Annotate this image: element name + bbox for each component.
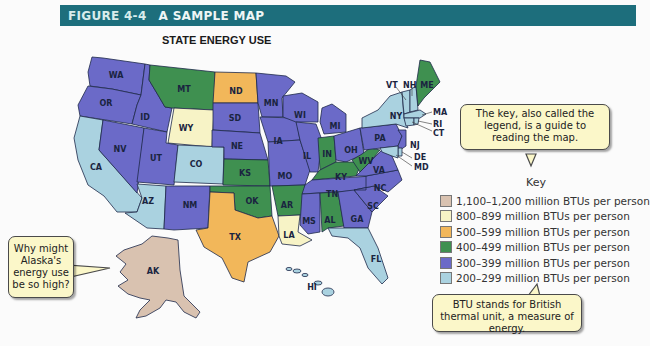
svg-text:TN: TN [326, 190, 338, 199]
legend-item: 300–399 million BTUs per person [440, 255, 650, 271]
svg-text:UT: UT [150, 154, 162, 163]
svg-text:ID: ID [140, 113, 150, 122]
svg-text:VA: VA [373, 166, 386, 175]
legend-label: 400–499 million BTUs per person [456, 241, 630, 253]
svg-text:NJ: NJ [410, 141, 420, 150]
legend-explanation-text: The key, also called the legend, is a gu… [476, 108, 594, 143]
btu-definition-callout: BTU stands for British thermal unit, a m… [432, 294, 582, 332]
svg-text:MI: MI [330, 122, 341, 131]
svg-text:NV: NV [114, 145, 128, 154]
svg-text:MA: MA [433, 108, 448, 117]
svg-text:AZ: AZ [142, 197, 154, 206]
svg-text:HI: HI [307, 283, 317, 292]
legend-item: 1,100–1,200 million BTUs per person [440, 193, 650, 209]
svg-text:OR: OR [100, 99, 113, 108]
legend-explanation-callout: The key, also called the legend, is a gu… [460, 104, 610, 150]
svg-text:NM: NM [183, 201, 198, 210]
svg-text:CA: CA [90, 163, 103, 172]
map-legend: Key 1,100–1,200 million BTUs per person … [440, 176, 650, 286]
legend-label: 800–899 million BTUs per person [456, 210, 630, 222]
legend-title: Key [448, 176, 624, 189]
legend-swatch [440, 272, 452, 284]
legend-label: 1,100–1,200 million BTUs per person [456, 195, 650, 207]
svg-text:AL: AL [324, 216, 335, 225]
svg-text:MD: MD [414, 163, 429, 172]
svg-text:ND: ND [229, 87, 243, 96]
state-NY[interactable] [362, 92, 408, 128]
svg-text:IA: IA [273, 137, 283, 146]
alaska-question-callout: Why might Alaska's energy use be so high… [8, 236, 74, 298]
svg-text:MN: MN [264, 99, 279, 108]
svg-text:LA: LA [283, 231, 295, 240]
svg-text:NY: NY [390, 112, 403, 121]
legend-item: 500–599 million BTUs per person [440, 224, 650, 240]
legend-label: 500–599 million BTUs per person [456, 226, 630, 238]
svg-text:MO: MO [278, 172, 293, 181]
svg-text:IL: IL [303, 152, 311, 161]
svg-text:GA: GA [351, 215, 365, 224]
svg-text:DE: DE [414, 153, 426, 162]
svg-text:KS: KS [239, 169, 251, 178]
svg-text:WY: WY [179, 124, 194, 133]
legend-item: 800–899 million BTUs per person [440, 209, 650, 225]
svg-text:ME: ME [420, 81, 433, 90]
svg-text:AK: AK [147, 267, 160, 276]
legend-label: 300–399 million BTUs per person [456, 257, 630, 269]
svg-text:IN: IN [322, 150, 332, 159]
svg-text:TX: TX [229, 233, 241, 242]
legend-swatch [440, 195, 452, 207]
svg-text:SC: SC [367, 202, 379, 211]
legend-swatch [440, 226, 452, 238]
svg-text:WI: WI [294, 111, 306, 120]
svg-text:NE: NE [231, 142, 243, 151]
svg-text:SD: SD [229, 114, 242, 123]
svg-text:FL: FL [371, 255, 382, 264]
state-AK[interactable] [116, 236, 200, 318]
legend-label: 200–299 million BTUs per person [456, 272, 630, 284]
svg-text:WA: WA [109, 71, 124, 80]
svg-text:WV: WV [358, 157, 374, 166]
state-DE[interactable] [398, 148, 402, 156]
svg-text:PA: PA [374, 134, 386, 143]
svg-text:VT: VT [386, 81, 398, 90]
btu-definition-text: BTU stands for British thermal unit, a m… [440, 299, 574, 334]
svg-text:KY: KY [335, 173, 347, 182]
legend-swatch [440, 257, 452, 269]
svg-text:OK: OK [246, 197, 260, 206]
svg-text:NC: NC [374, 184, 387, 193]
svg-text:MS: MS [302, 217, 316, 226]
svg-text:RI: RI [433, 120, 442, 129]
legend-swatch [440, 241, 452, 253]
svg-text:CT: CT [433, 129, 445, 138]
alaska-question-text: Why might Alaska's energy use be so high… [12, 243, 69, 290]
legend-item: 200–299 million BTUs per person [440, 271, 650, 287]
svg-text:CO: CO [190, 160, 203, 169]
svg-text:OH: OH [344, 146, 358, 155]
svg-text:NH: NH [403, 81, 416, 90]
legend-swatch [440, 210, 452, 222]
svg-text:MT: MT [177, 85, 191, 94]
state-MS[interactable] [300, 193, 320, 234]
legend-callout-pointer [526, 154, 536, 166]
legend-item: 400–499 million BTUs per person [440, 240, 650, 256]
svg-text:AR: AR [281, 201, 293, 210]
